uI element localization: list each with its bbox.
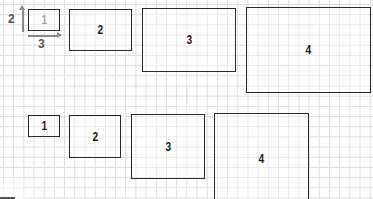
bottom-rect-3: 3 [131, 114, 205, 179]
rect-label: 2 [98, 23, 104, 37]
bottom-rect-1: 1 [28, 115, 60, 137]
top-rect-1: 1 [28, 9, 60, 31]
top-rect-3: 3 [142, 8, 236, 72]
rect-label: 1 [41, 119, 47, 133]
bottom-rect-4: 4 [214, 113, 309, 199]
height-arrow-icon [22, 8, 24, 32]
rect-label: 1 [41, 13, 47, 27]
bottom-rect-2: 2 [69, 115, 121, 158]
top-rect-4: 4 [246, 7, 371, 93]
rect-label: 2 [92, 130, 98, 144]
rect-label: 4 [306, 43, 312, 57]
top-rect-2: 2 [69, 9, 132, 51]
rect-label: 4 [259, 152, 265, 166]
page-curl-shadow [0, 168, 40, 199]
width-dimension-label: 3 [38, 37, 45, 51]
rect-label: 3 [186, 33, 192, 47]
corner-edge-line [0, 197, 15, 199]
rect-label: 3 [165, 140, 171, 154]
height-dimension-label: 2 [8, 12, 15, 26]
